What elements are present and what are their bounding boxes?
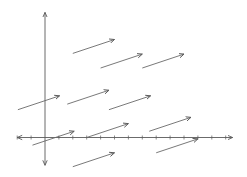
coordinate-axes (17, 12, 232, 165)
vector-arrow (142, 54, 184, 68)
vector-arrow (73, 40, 115, 54)
vector-arrow (87, 124, 129, 138)
vector-arrow (109, 96, 151, 110)
vector-arrow (18, 96, 60, 110)
vector-arrow (156, 139, 198, 153)
vector-arrow (67, 90, 109, 104)
vector-arrow (149, 117, 191, 131)
vector-arrow (101, 54, 143, 68)
vector-arrow (73, 153, 115, 167)
vector-arrow (32, 131, 74, 145)
vector-diagram (0, 0, 247, 177)
